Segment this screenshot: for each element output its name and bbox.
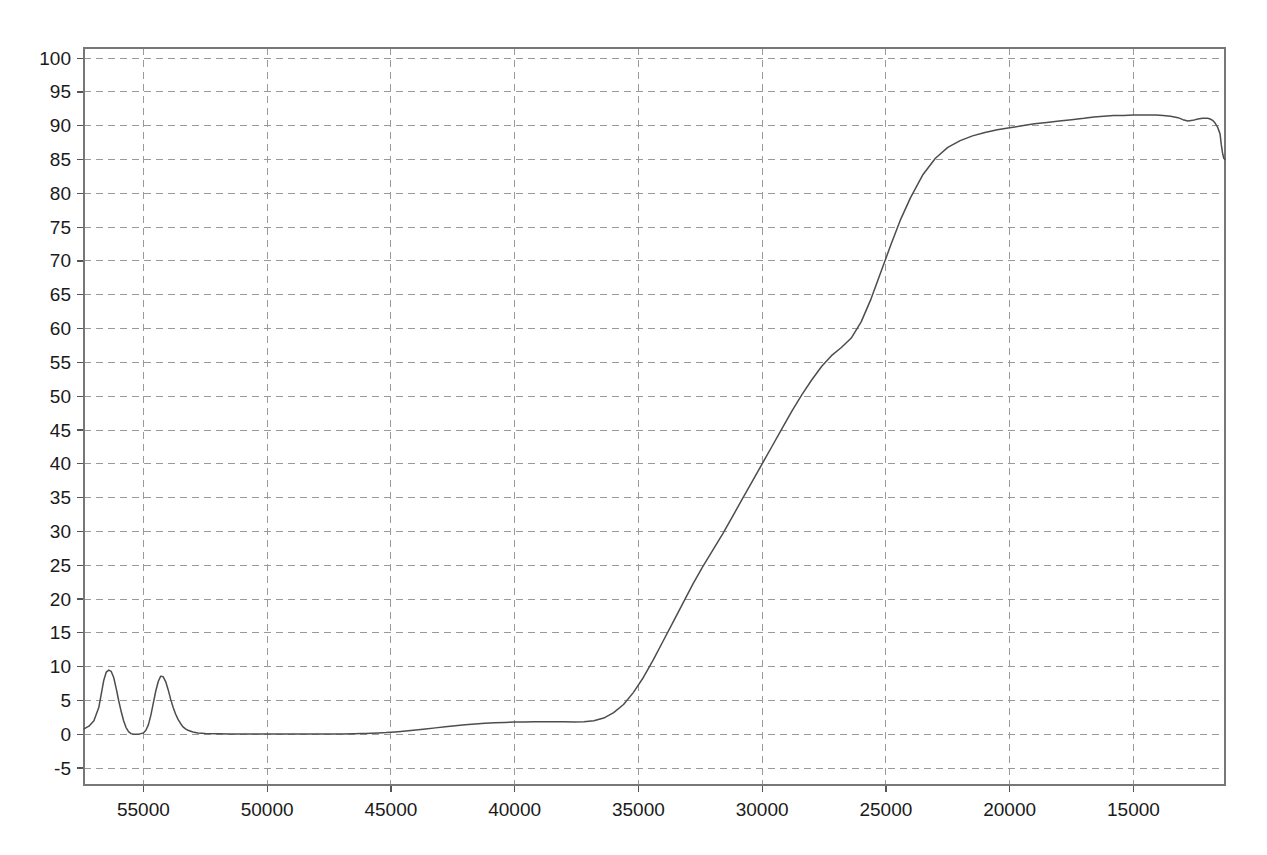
y-tick-label: 10 — [50, 656, 71, 677]
y-tick-label: 35 — [50, 487, 71, 508]
y-tick-label: 95 — [50, 81, 71, 102]
y-tick-label: 30 — [50, 521, 71, 542]
x-tick-label: 20000 — [983, 799, 1036, 820]
y-tick-label: 50 — [50, 386, 71, 407]
x-tick-label: 45000 — [364, 799, 417, 820]
x-tick-label: 25000 — [859, 799, 912, 820]
y-tick-label: 80 — [50, 183, 71, 204]
y-tick-label: 5 — [60, 690, 71, 711]
transmittance-curve — [84, 115, 1225, 734]
y-tick-label: 20 — [50, 589, 71, 610]
y-tick-label: 45 — [50, 420, 71, 441]
y-tick-label: 85 — [50, 149, 71, 170]
y-tick-label: 40 — [50, 453, 71, 474]
tick-marks-layer — [77, 58, 1133, 792]
y-tick-label: 60 — [50, 318, 71, 339]
chart-container: -505101520253035404550556065707580859095… — [0, 0, 1267, 855]
y-tick-label: 70 — [50, 250, 71, 271]
x-axis-labels: 5500050000450004000035000300002500020000… — [117, 799, 1160, 820]
x-tick-label: 15000 — [1107, 799, 1160, 820]
x-tick-label: 35000 — [612, 799, 665, 820]
y-tick-label: -5 — [54, 758, 71, 779]
y-axis-labels: -505101520253035404550556065707580859095… — [39, 48, 71, 779]
plot-frame — [84, 48, 1225, 785]
x-tick-label: 50000 — [241, 799, 294, 820]
x-tick-label: 55000 — [117, 799, 170, 820]
x-tick-label: 30000 — [736, 799, 789, 820]
x-tick-label: 40000 — [488, 799, 541, 820]
y-tick-label: 0 — [60, 724, 71, 745]
spectrum-plot: -505101520253035404550556065707580859095… — [0, 0, 1267, 855]
y-tick-label: 65 — [50, 284, 71, 305]
y-tick-label: 90 — [50, 115, 71, 136]
y-tick-label: 55 — [50, 352, 71, 373]
y-tick-label: 75 — [50, 217, 71, 238]
y-tick-label: 25 — [50, 555, 71, 576]
y-tick-label: 15 — [50, 622, 71, 643]
grid-layer — [84, 48, 1225, 785]
y-tick-label: 100 — [39, 48, 71, 69]
